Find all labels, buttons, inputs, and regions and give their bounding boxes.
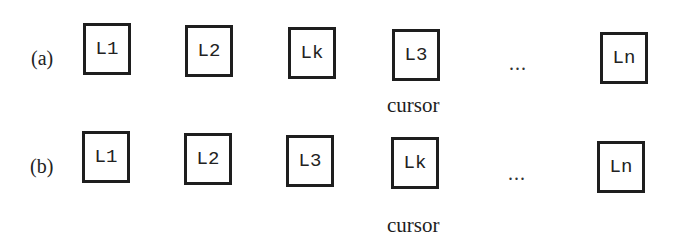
node-box: L2 [184,133,232,185]
ellipsis: ... [508,162,526,185]
cursor-label: cursor [387,213,439,238]
row-a-label: (a) [31,47,53,70]
node-box-cursor: Lk [391,137,439,189]
node-box: Ln [597,141,645,193]
node-box: Lk [288,27,336,79]
node-box: L1 [82,131,130,183]
node-box: L2 [185,25,233,77]
node-box: L3 [286,135,334,187]
row-b-label: (b) [30,155,53,178]
ellipsis: ... [509,52,527,75]
node-box: Ln [600,32,648,84]
node-box-cursor: L3 [392,29,440,81]
cursor-label: cursor [387,93,439,118]
node-box: L1 [83,23,131,75]
